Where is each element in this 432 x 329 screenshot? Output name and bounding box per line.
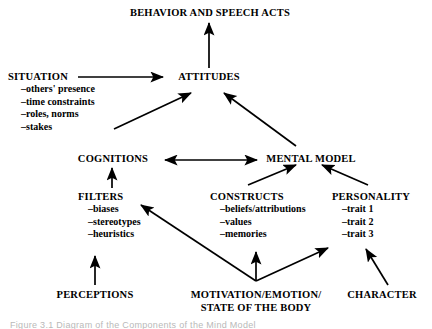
node-personality-label: PERSONALITY [332, 190, 410, 203]
figure-caption: Figure 3.1 Diagram of the Components of … [10, 320, 256, 329]
node-character: CHARACTER [336, 288, 428, 301]
node-perceptions: PERCEPTIONS [45, 288, 145, 301]
filters-item-list: –biases –stereotypes –heuristics [78, 203, 141, 241]
node-constructs-label: CONSTRUCTS [210, 190, 306, 203]
node-motivation-line1: MOTIVATION/EMOTION/ [180, 288, 332, 301]
node-filters-label: FILTERS [78, 190, 141, 203]
node-mental-model: MENTAL MODEL [261, 152, 361, 165]
node-situation-label: SITUATION [8, 70, 95, 83]
node-personality: PERSONALITY –trait 1 –trait 2 –trait 3 [332, 190, 410, 241]
list-item: –trait 2 [342, 216, 410, 229]
situation-item-list: –others' presence –time constraints –rol… [8, 83, 95, 133]
list-item: –memories [220, 228, 306, 241]
list-item: –values [220, 216, 306, 229]
edge-situation-list-to-attitudes [114, 93, 191, 129]
edge-personality-to-mentalmodel [322, 165, 368, 185]
personality-item-list: –trait 1 –trait 2 –trait 3 [332, 203, 410, 241]
list-item: –stakes [21, 121, 95, 134]
node-attitudes: ATTITUDES [169, 70, 249, 83]
node-behavior-label: BEHAVIOR AND SPEECH ACTS [90, 6, 330, 19]
node-attitudes-label: ATTITUDES [169, 70, 249, 83]
node-motivation-emotion: MOTIVATION/EMOTION/ STATE OF THE BODY [180, 288, 332, 314]
node-cognitions-label: COGNITIONS [66, 152, 160, 165]
node-situation: SITUATION –others' presence –time constr… [8, 70, 95, 133]
arrow-layer [0, 0, 432, 329]
constructs-item-list: –beliefs/attributions –values –memories [210, 203, 306, 241]
list-item: –heuristics [88, 228, 141, 241]
node-constructs: CONSTRUCTS –beliefs/attributions –values… [210, 190, 306, 241]
edge-character-to-personality [366, 249, 388, 285]
edge-constructs-to-mentalmodel [248, 165, 296, 185]
node-perceptions-label: PERCEPTIONS [45, 288, 145, 301]
node-filters: FILTERS –biases –stereotypes –heuristics [78, 190, 141, 241]
list-item: –roles, norms [21, 108, 95, 121]
list-item: –beliefs/attributions [220, 203, 306, 216]
node-motivation-line2: STATE OF THE BODY [180, 301, 332, 314]
list-item: –others' presence [21, 83, 95, 96]
edge-motivation-to-personality [256, 248, 328, 281]
list-item: –stereotypes [88, 216, 141, 229]
node-behavior-and-speech-acts: BEHAVIOR AND SPEECH ACTS [90, 6, 330, 19]
list-item: –trait 1 [342, 203, 410, 216]
node-mental-model-label: MENTAL MODEL [261, 152, 361, 165]
node-character-label: CHARACTER [336, 288, 428, 301]
mind-model-diagram: BEHAVIOR AND SPEECH ACTS SITUATION –othe… [0, 0, 432, 329]
edge-mentalmodel-to-attitudes [224, 93, 296, 146]
list-item: –time constraints [21, 96, 95, 109]
node-cognitions: COGNITIONS [66, 152, 160, 165]
list-item: –biases [88, 203, 141, 216]
list-item: –trait 3 [342, 228, 410, 241]
